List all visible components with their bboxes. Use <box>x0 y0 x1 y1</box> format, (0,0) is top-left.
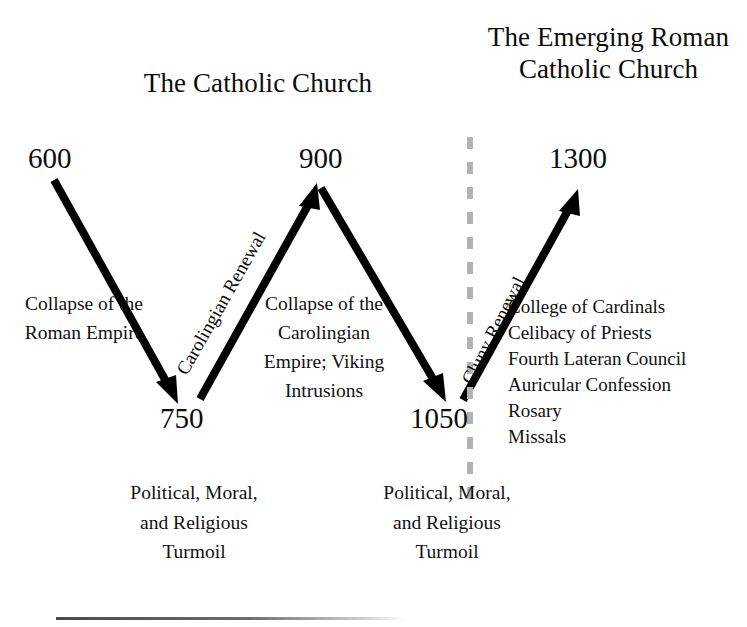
list-item: Missals <box>508 427 747 446</box>
description-collapse-of-roman-empire: Collapse of the Roman Empire <box>20 290 148 348</box>
year-label-600: 600 <box>28 144 72 173</box>
arrow-label-carolingian-renewal: Carolingian Renewal <box>172 228 270 379</box>
year-label-900: 900 <box>299 144 343 173</box>
caption-turmoil-left: Political, Moral, and Religious Turmoil <box>120 478 268 567</box>
bottom-divider-rule <box>56 617 406 620</box>
year-label-1300: 1300 <box>549 144 607 173</box>
list-item: Fourth Lateran Council <box>508 349 747 369</box>
diagram-canvas: The Catholic Church The Emerging Roman C… <box>0 0 747 627</box>
list-item: Celibacy of Priests <box>508 323 747 342</box>
caption-turmoil-right: Political, Moral, and Religious Turmoil <box>373 478 521 567</box>
description-collapse-of-carolingian-empire: Collapse of the Carolingian Empire; Viki… <box>258 290 390 405</box>
list-item: Auricular Confession <box>508 375 747 394</box>
list-item: College of Cardinals <box>508 297 747 316</box>
section-title-catholic-church: The Catholic Church <box>78 68 438 100</box>
year-label-750: 750 <box>160 404 204 433</box>
year-label-1050: 1050 <box>410 404 468 433</box>
section-title-emerging-roman-catholic-church: The Emerging Roman Catholic Church <box>470 22 747 86</box>
list-item: Rosary <box>508 401 747 420</box>
list-roman-catholic-developments: College of Cardinals Celibacy of Priests… <box>508 297 747 453</box>
